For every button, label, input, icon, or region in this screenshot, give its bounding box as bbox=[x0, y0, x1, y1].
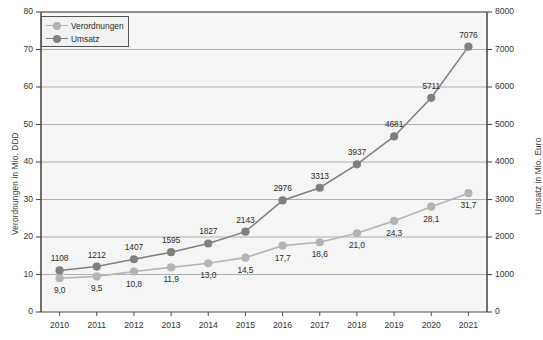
legend-item-verordnungen[interactable]: Verordnungen bbox=[46, 19, 124, 32]
y-axis-right-tick: 3000 bbox=[495, 194, 525, 204]
x-axis-tick: 2016 bbox=[263, 320, 303, 330]
x-axis-tick: 2010 bbox=[40, 320, 80, 330]
legend-label-verordnungen: Verordnungen bbox=[71, 21, 124, 31]
x-axis-tick: 2021 bbox=[448, 320, 488, 330]
y-axis-left-title: Verordnungen in Mio. DDD bbox=[10, 132, 20, 235]
y-axis-right-tick: 8000 bbox=[495, 6, 525, 16]
legend-marker-umsatz-icon bbox=[46, 34, 68, 44]
y-axis-right-tick: 4000 bbox=[495, 156, 525, 166]
x-axis-tick: 2018 bbox=[337, 320, 377, 330]
data-label-umsatz-2013: 1595 bbox=[149, 235, 193, 245]
y-axis-left-tick: 70 bbox=[7, 44, 33, 54]
data-label-umsatz-2021: 7076 bbox=[446, 30, 490, 40]
y-axis-left-tick: 80 bbox=[7, 6, 33, 16]
y-axis-right-title: Umsatz in Mio. Euro bbox=[533, 137, 543, 215]
data-label-umsatz-2017: 3313 bbox=[298, 171, 342, 181]
data-label-umsatz-2015: 2143 bbox=[223, 215, 267, 225]
y-axis-right-tick: 5000 bbox=[495, 119, 525, 129]
y-axis-right-tick: 2000 bbox=[495, 231, 525, 241]
y-axis-left-tick: 50 bbox=[7, 119, 33, 129]
y-axis-left-tick: 10 bbox=[7, 269, 33, 279]
y-axis-left-tick: 40 bbox=[7, 156, 33, 166]
data-label-verordnungen-2021: 31,7 bbox=[446, 200, 490, 210]
data-label-verordnungen-2018: 21,0 bbox=[335, 240, 379, 250]
chart-legend: Verordnungen Umsatz bbox=[41, 16, 129, 47]
legend-label-umsatz: Umsatz bbox=[71, 34, 99, 44]
legend-item-umsatz[interactable]: Umsatz bbox=[46, 32, 99, 45]
y-axis-left-tick: 30 bbox=[7, 194, 33, 204]
data-label-verordnungen-2017: 18,6 bbox=[298, 249, 342, 259]
x-axis-tick: 2012 bbox=[114, 320, 154, 330]
x-axis-tick: 2011 bbox=[77, 320, 117, 330]
data-label-umsatz-2016: 2976 bbox=[261, 183, 305, 193]
chart-container: Verordnungen in Mio. DDD Umsatz in Mio. … bbox=[0, 0, 543, 340]
x-axis-tick: 2014 bbox=[188, 320, 228, 330]
y-axis-right-tick: 1000 bbox=[495, 269, 525, 279]
data-label-verordnungen-2019: 24,3 bbox=[372, 228, 416, 238]
legend-marker-verordnungen-icon bbox=[46, 21, 68, 31]
data-label-umsatz-2020: 5711 bbox=[409, 81, 453, 91]
data-label-umsatz-2018: 3937 bbox=[335, 147, 379, 157]
y-axis-right-tick: 6000 bbox=[495, 81, 525, 91]
x-axis-tick: 2013 bbox=[151, 320, 191, 330]
data-label-verordnungen-2020: 28,1 bbox=[409, 214, 453, 224]
y-axis-right-tick: 0 bbox=[495, 306, 525, 316]
y-axis-right-tick: 7000 bbox=[495, 44, 525, 54]
x-axis-tick: 2019 bbox=[374, 320, 414, 330]
x-axis-tick: 2020 bbox=[411, 320, 451, 330]
y-axis-left-tick: 60 bbox=[7, 81, 33, 91]
y-axis-left-tick: 0 bbox=[7, 306, 33, 316]
data-label-verordnungen-2015: 14,5 bbox=[223, 265, 267, 275]
data-label-umsatz-2014: 1827 bbox=[186, 226, 230, 236]
data-label-umsatz-2019: 4681 bbox=[372, 119, 416, 129]
y-axis-left-tick: 20 bbox=[7, 231, 33, 241]
x-axis-tick: 2015 bbox=[225, 320, 265, 330]
x-axis-tick: 2017 bbox=[300, 320, 340, 330]
